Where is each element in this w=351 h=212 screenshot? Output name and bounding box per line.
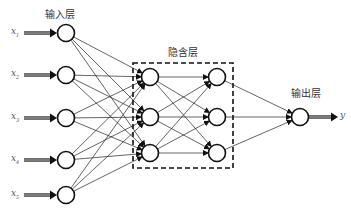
input-var-x1: x1 <box>11 26 19 38</box>
output-node <box>292 109 309 126</box>
hidden2-node-2 <box>209 109 226 126</box>
hidden1-node-3 <box>142 145 159 162</box>
output-var-y: y <box>340 110 345 120</box>
edge <box>225 120 292 149</box>
input-arrow-2 <box>24 71 57 80</box>
edge <box>74 157 143 191</box>
input-node-4 <box>58 152 75 169</box>
edge <box>74 79 143 113</box>
input-node-3 <box>58 110 75 127</box>
hidden2-node-1 <box>209 69 226 86</box>
input-node-2 <box>58 67 75 84</box>
hidden1-node-2 <box>142 109 159 126</box>
input-node-5 <box>58 187 75 204</box>
edge <box>74 37 143 73</box>
edge <box>74 81 143 115</box>
edge <box>225 81 293 114</box>
input-arrow-1 <box>24 29 57 38</box>
input-arrow-5 <box>24 191 57 200</box>
edge <box>71 84 145 188</box>
input-arrows <box>24 29 57 200</box>
edge <box>74 121 143 156</box>
hidden2-node-3 <box>209 145 226 162</box>
output-arrow <box>309 113 338 122</box>
edge <box>74 154 141 160</box>
input-layer-label: 输入层 <box>45 6 75 21</box>
neural-network-diagram <box>0 0 351 212</box>
input-arrow-3 <box>24 114 57 123</box>
hidden1-node-1 <box>142 69 159 86</box>
edge <box>74 117 141 118</box>
input-var-x4: x4 <box>11 153 19 165</box>
hidden-to-hidden-edges <box>156 77 212 153</box>
input-var-x3: x3 <box>11 111 19 123</box>
output-layer-label: 输出层 <box>291 85 321 100</box>
hidden-to-output-edges <box>225 81 293 150</box>
input-node-1 <box>58 25 75 42</box>
edge <box>72 81 144 147</box>
input-var-x5: x5 <box>11 188 19 200</box>
hidden-layer-label: 隐含层 <box>168 44 198 59</box>
input-arrow-4 <box>24 156 57 165</box>
input-var-x2: x2 <box>11 68 19 80</box>
